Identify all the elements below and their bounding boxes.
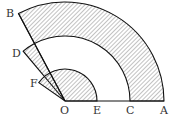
label-O: O — [60, 104, 69, 117]
sector-EOF — [39, 69, 97, 101]
label-C: C — [126, 104, 134, 117]
label-D: D — [12, 47, 21, 60]
label-B: B — [6, 7, 14, 20]
label-E: E — [93, 104, 101, 117]
label-F: F — [30, 77, 38, 90]
label-A: A — [159, 104, 169, 117]
sector-figure: B D F O E C A — [0, 0, 177, 119]
geometry-diagram: B D F O E C A — [0, 0, 177, 119]
